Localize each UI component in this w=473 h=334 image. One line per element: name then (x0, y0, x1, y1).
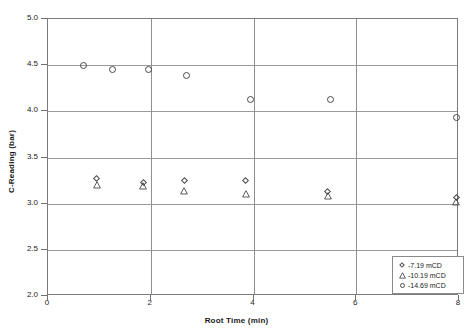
gridline-horizontal (48, 204, 457, 205)
gridline-horizontal (48, 111, 457, 112)
data-point-circle (109, 66, 116, 73)
data-point-diamond (242, 177, 249, 184)
legend-marker-triangle-icon (397, 272, 407, 279)
legend-label: -10.19 mCD (407, 272, 446, 279)
data-point-circle (80, 62, 87, 69)
legend-label: -7.19 mCD (407, 262, 442, 269)
y-tick-label: 2.5 (27, 245, 38, 253)
gridline-horizontal (48, 250, 457, 251)
x-tick-mark (47, 295, 48, 300)
y-tick-label: 4.0 (27, 106, 38, 114)
gridline-vertical (254, 19, 255, 294)
data-point-circle (327, 96, 334, 103)
x-axis-title: Root Time (min) (0, 316, 473, 325)
x-tick-label: 6 (353, 299, 357, 307)
legend-label: -14.69 mCD (407, 282, 446, 289)
gridline-vertical (151, 19, 152, 294)
gridline-vertical (356, 19, 357, 294)
legend-marker-diamond-icon (397, 263, 407, 267)
data-point-circle (453, 114, 460, 121)
legend-item: -7.19 mCD (397, 260, 459, 270)
x-tick-label: 0 (45, 299, 49, 307)
x-tick-label: 8 (456, 299, 460, 307)
y-tick-mark (41, 18, 47, 19)
y-tick-mark (41, 157, 47, 158)
data-point-circle (183, 72, 190, 79)
scatter-chart: 2.02.53.03.54.04.55.0 02468 Root Time (m… (0, 0, 473, 334)
y-tick-mark (41, 110, 47, 111)
plot-area (47, 18, 458, 295)
y-tick-label: 3.5 (27, 153, 38, 161)
y-tick-mark (41, 64, 47, 65)
y-tick-mark (41, 203, 47, 204)
x-tick-label: 4 (250, 299, 254, 307)
y-tick-label: 4.5 (27, 60, 38, 68)
gridline-horizontal (48, 158, 457, 159)
x-tick-mark (458, 295, 459, 300)
chart-legend: -7.19 mCD-10.19 mCD-14.69 mCD (392, 256, 464, 294)
x-tick-mark (253, 295, 254, 300)
y-tick-label: 3.0 (27, 199, 38, 207)
y-axis-title: C-Reading (bar) (7, 117, 16, 207)
x-tick-mark (150, 295, 151, 300)
y-tick-label: 2.0 (27, 291, 38, 299)
x-tick-mark (355, 295, 356, 300)
legend-item: -10.19 mCD (397, 270, 459, 280)
x-axis-tick-labels: 02468 (47, 299, 458, 313)
x-tick-label: 2 (148, 299, 152, 307)
y-tick-mark (41, 249, 47, 250)
legend-item: -14.69 mCD (397, 280, 459, 290)
data-point-circle (145, 66, 152, 73)
legend-marker-circle-icon (397, 283, 407, 288)
y-tick-label: 5.0 (27, 14, 38, 22)
data-point-diamond (181, 177, 188, 184)
